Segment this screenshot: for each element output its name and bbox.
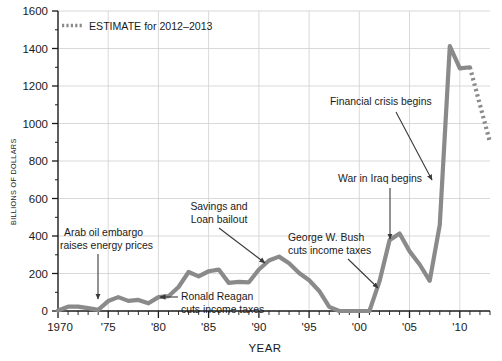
deficit-line-chart: 0 200 400 600 800 1000 1200 1400 1600 19… — [0, 0, 502, 361]
y-tick-label: 800 — [29, 155, 48, 167]
x-tick-label: '85 — [201, 321, 216, 333]
chart-figure: 0 200 400 600 800 1000 1200 1400 1600 19… — [0, 0, 502, 361]
y-tick-label: 600 — [29, 193, 48, 205]
y-tick-label: 1000 — [22, 118, 48, 130]
x-tick-label: '10 — [452, 321, 467, 333]
annotation-line1: War in Iraq begins — [338, 173, 422, 184]
y-major-ticks — [52, 11, 58, 311]
annotation-line2: cuts income taxes — [288, 245, 371, 256]
annotation-line2: cuts income taxes — [181, 304, 264, 315]
x-tick-label: '90 — [251, 321, 266, 333]
y-tick-label: 1600 — [22, 5, 48, 17]
y-tick-label: 200 — [29, 268, 48, 280]
annotation-line1: Ronald Reagan — [181, 291, 253, 302]
annotation-line1: Savings and — [190, 201, 247, 212]
y-tick-labels: 0 200 400 600 800 1000 1200 1400 1600 — [22, 5, 48, 317]
x-tick-label: '95 — [302, 321, 317, 333]
y-axis-title: BILLIONS OF DOLLARS — [9, 138, 18, 225]
y-tick-label: 1400 — [22, 43, 48, 55]
x-tick-label: '80 — [151, 321, 166, 333]
y-tick-label: 1200 — [22, 80, 48, 92]
annotation-line2: Loan bailout — [191, 214, 248, 225]
annotation-line2: raises energy prices — [60, 240, 153, 251]
legend-estimate-label: ESTIMATE for 2012–2013 — [89, 20, 213, 32]
x-axis-title: YEAR — [249, 342, 282, 354]
annotation-line1: Financial crisis begins — [330, 96, 432, 107]
annotation-line1: George W. Bush — [288, 232, 364, 243]
annotation-line1: Arab oil embargo — [64, 227, 143, 238]
x-tick-label: '05 — [402, 321, 417, 333]
x-tick-label: '75 — [101, 321, 116, 333]
y-tick-label: 400 — [29, 230, 48, 242]
x-tick-label: 1970 — [47, 321, 73, 333]
x-tick-label: '00 — [352, 321, 367, 333]
y-tick-label: 0 — [42, 305, 48, 317]
x-tick-labels: 1970 '75 '80 '85 '90 '95 '00 '05 '10 — [47, 321, 467, 333]
